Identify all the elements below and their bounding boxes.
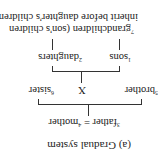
ego-descent-line — [81, 72, 82, 83]
daughters-tick — [52, 66, 53, 72]
sons-descent-line — [119, 39, 120, 50]
ego-label: X — [78, 85, 86, 96]
sons-tick — [119, 66, 120, 72]
brother-tick — [141, 99, 142, 105]
children-bar — [52, 71, 120, 72]
sons-label: 1sons — [109, 52, 131, 64]
parent-descent-line — [88, 105, 89, 116]
grandchildren-note: inherit before daughter's children) — [0, 12, 138, 23]
sister-tick — [38, 99, 39, 105]
parents-label: 3father = 4mother — [49, 117, 120, 129]
daughters-label: 2daughters — [38, 52, 82, 64]
brother-label: 5brother — [125, 85, 158, 97]
daughters-descent-line — [52, 39, 53, 50]
figure-caption: (a) Gradual system — [47, 140, 131, 151]
grandchildren-label: 7grandchildren (son's children — [9, 24, 134, 36]
sibling-bar — [38, 104, 142, 105]
kinship-diagram: (a) Gradual system 3father = 4mother 5br… — [0, 0, 164, 166]
sister-label: 6sister — [29, 85, 54, 97]
